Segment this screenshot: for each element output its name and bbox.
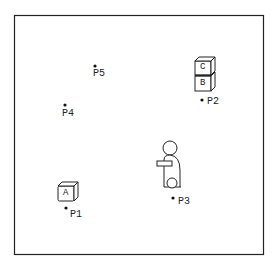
block-a-side [74,182,78,201]
label-p1: P1 [70,210,82,220]
block-a-label: A [63,189,68,198]
block-b-side [211,72,215,91]
room-frame [15,16,264,255]
point-p4-dot [63,103,66,106]
robot-wheel [167,178,177,188]
label-p2: P2 [207,97,219,107]
point-p2-dot [200,98,203,101]
label-p5: P5 [93,69,105,79]
point-p3-dot [171,196,174,199]
robot-arm [157,161,172,166]
robot-head [163,141,177,155]
label-p4: P4 [62,109,74,119]
block-c-label: C [200,63,205,72]
point-p1-dot [64,206,67,209]
label-p3: P3 [178,197,190,207]
robot [157,141,181,188]
scene-diagram [0,0,280,268]
block-b-label: B [200,79,205,88]
